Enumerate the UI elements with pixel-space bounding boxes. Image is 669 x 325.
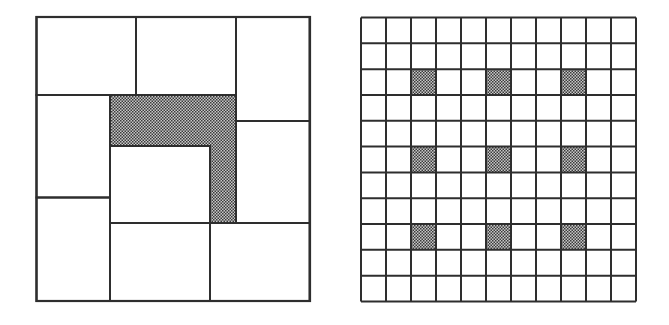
diagram-canvas xyxy=(0,0,669,325)
shaded-cell xyxy=(486,69,511,95)
shaded-cell xyxy=(411,69,436,95)
dissection-rectangle-0 xyxy=(37,17,137,95)
dissection-rectangle-6 xyxy=(110,146,210,223)
shaded-l-shape xyxy=(110,95,236,223)
shaded-cell xyxy=(561,147,586,173)
shaded-cell xyxy=(486,147,511,173)
dissection-rectangle-8 xyxy=(210,223,310,301)
shaded-cell xyxy=(411,147,436,173)
grid-figure xyxy=(361,18,636,302)
square-dissection-figure xyxy=(37,17,311,301)
dissection-rectangle-1 xyxy=(136,17,236,95)
shaded-cell xyxy=(561,69,586,95)
dissection-rectangle-2 xyxy=(236,17,310,121)
dissection-rectangle-5 xyxy=(37,198,111,302)
dissection-rectangle-3 xyxy=(37,95,111,198)
shaded-cell xyxy=(411,224,436,250)
shaded-cell xyxy=(486,224,511,250)
dissection-frame xyxy=(37,17,311,301)
dissection-rectangle-4 xyxy=(236,121,310,223)
shaded-cell xyxy=(561,224,586,250)
dissection-rectangle-7 xyxy=(110,223,210,301)
